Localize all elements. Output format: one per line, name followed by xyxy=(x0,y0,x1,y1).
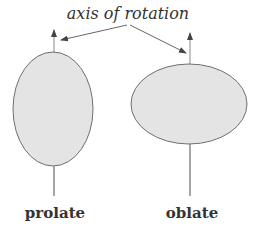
spheroid-diagram: axis of rotation prolate oblate xyxy=(0,0,259,232)
oblate-label: oblate xyxy=(166,204,218,222)
axis-of-rotation-label: axis of rotation xyxy=(67,4,189,23)
prolate-label: prolate xyxy=(25,204,85,222)
pointer-arrow-oblate xyxy=(130,25,186,53)
pointer-arrow-prolate xyxy=(61,25,127,40)
oblate-ellipse xyxy=(131,64,247,144)
prolate-ellipse xyxy=(13,52,93,166)
